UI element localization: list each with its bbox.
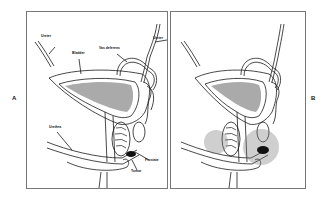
label-prostate: Prostate xyxy=(145,159,159,162)
panel-a: Ureter Bladder Vas deferens Ureter Ureth… xyxy=(26,11,168,189)
panel-letter-a: A xyxy=(12,95,16,101)
label-ureter-right: Ureter xyxy=(153,37,163,40)
label-urethra: Urethra xyxy=(49,126,61,129)
label-bladder: Bladder xyxy=(72,52,85,55)
anatomy-illustration-b xyxy=(171,12,307,190)
label-ureter-left: Ureter xyxy=(41,35,51,38)
label-tumor: Tumor xyxy=(131,170,141,173)
panel-letter-b: B xyxy=(311,95,315,101)
anatomy-illustration-a xyxy=(27,12,169,190)
panel-b xyxy=(170,11,306,189)
label-vas-deferens: Vas deferens xyxy=(99,47,120,50)
